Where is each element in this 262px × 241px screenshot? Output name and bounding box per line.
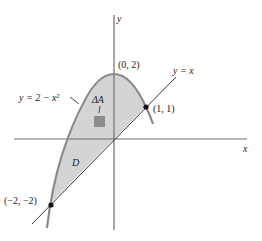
point-label-0-2: (0, 2) <box>118 60 140 70</box>
y-axis-label: y <box>117 14 121 24</box>
line-label: y = x <box>173 66 194 76</box>
area-element <box>94 116 105 127</box>
point-1-1 <box>143 104 148 109</box>
point-label-neg2-neg2: (−2, −2) <box>4 196 37 206</box>
curve-label: y = 2 − x² <box>19 93 59 103</box>
region-label: D <box>72 158 79 168</box>
x-axis-label: x <box>243 144 247 154</box>
point-neg2-neg2 <box>48 202 53 207</box>
area-element-label: ΔA <box>92 95 104 105</box>
curve-label-leader <box>70 97 79 104</box>
point-label-1-1: (1, 1) <box>153 104 175 114</box>
region-diagram <box>0 0 262 241</box>
